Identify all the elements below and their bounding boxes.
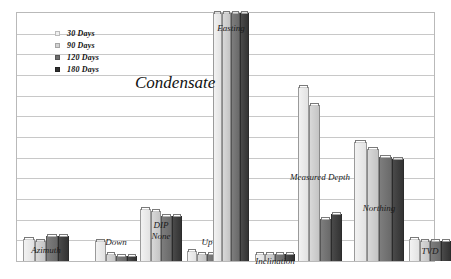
bar-slot	[106, 13, 117, 261]
bar-slot	[35, 13, 47, 261]
bar-slot	[213, 13, 222, 261]
category-group-header: DIP	[154, 220, 169, 230]
bar-slot	[172, 13, 183, 261]
legend-swatch-icon	[55, 67, 60, 72]
bar-slot	[23, 13, 35, 261]
bar-slot	[331, 13, 342, 261]
bar-slot	[309, 13, 320, 261]
category-label: Up	[202, 237, 213, 247]
bar-slot	[320, 13, 331, 261]
bar[interactable]	[197, 254, 207, 261]
category-label: Down	[105, 237, 127, 247]
plot-area: AzimuthDownNoneUpEastingInclinationMeasu…	[16, 12, 435, 262]
bar[interactable]	[106, 254, 117, 261]
bar[interactable]	[213, 13, 222, 261]
bar-group	[95, 13, 137, 261]
bar[interactable]	[222, 13, 231, 261]
bar-slot	[392, 13, 405, 261]
legend-item-label: 120 Days	[67, 53, 99, 62]
bar-slot	[255, 13, 265, 261]
bar[interactable]	[172, 216, 183, 261]
bar[interactable]	[140, 209, 151, 261]
bar-slot	[127, 13, 138, 261]
legend-swatch-icon	[55, 55, 60, 60]
bar[interactable]	[95, 241, 106, 261]
legend-item: 30 Days	[55, 27, 99, 39]
bar-slot	[187, 13, 197, 261]
bar[interactable]	[187, 251, 197, 261]
legend-item: 120 Days	[55, 51, 99, 63]
bar-group	[255, 13, 295, 261]
category-label: TVD	[421, 246, 438, 256]
bar-slot	[116, 13, 127, 261]
category-label: Azimuth	[31, 245, 61, 255]
bar-slot	[240, 13, 249, 261]
category-label: Inclination	[255, 256, 295, 266]
bar-group	[409, 13, 451, 261]
category-label: Easting	[217, 23, 245, 33]
bar-slot	[222, 13, 231, 261]
bar-slot	[265, 13, 275, 261]
bar-slot	[231, 13, 240, 261]
bar[interactable]	[240, 13, 249, 261]
legend-item-label: 90 Days	[67, 41, 95, 50]
legend-swatch-icon	[55, 31, 60, 36]
bar-group	[354, 13, 404, 261]
bar-slot	[354, 13, 367, 261]
bar-slot	[441, 13, 451, 261]
legend-swatch-icon	[55, 43, 60, 48]
legend-item-label: 30 Days	[67, 29, 95, 38]
bar[interactable]	[354, 142, 367, 261]
bar-slot	[285, 13, 295, 261]
bar-slot	[275, 13, 285, 261]
legend-item-label: 180 Days	[67, 65, 99, 74]
category-label: Northing	[363, 203, 396, 213]
legend-item: 180 Days	[55, 63, 99, 75]
chart-title: Condensate	[135, 73, 215, 93]
bar[interactable]	[320, 219, 331, 261]
bar-slot	[430, 13, 441, 261]
bar[interactable]	[331, 214, 342, 261]
bar[interactable]	[116, 256, 127, 261]
bar[interactable]	[409, 239, 420, 261]
bar-group	[298, 13, 342, 261]
category-label: Measured Depth	[290, 172, 350, 182]
legend-item: 90 Days	[55, 39, 99, 51]
bar-group	[213, 13, 249, 261]
bar-slot	[197, 13, 207, 261]
bar-slot	[409, 13, 420, 261]
bar[interactable]	[441, 241, 451, 261]
chart-legend: 30 Days 90 Days 120 Days 180 Days	[55, 27, 99, 75]
bar[interactable]	[309, 105, 320, 261]
bar-slot	[367, 13, 380, 261]
bar[interactable]	[231, 13, 240, 261]
bar-slot	[379, 13, 392, 261]
bar-slot	[140, 13, 151, 261]
category-label: None	[152, 231, 171, 241]
bar[interactable]	[127, 256, 138, 261]
bar-slot	[420, 13, 431, 261]
bar-slot	[298, 13, 309, 261]
